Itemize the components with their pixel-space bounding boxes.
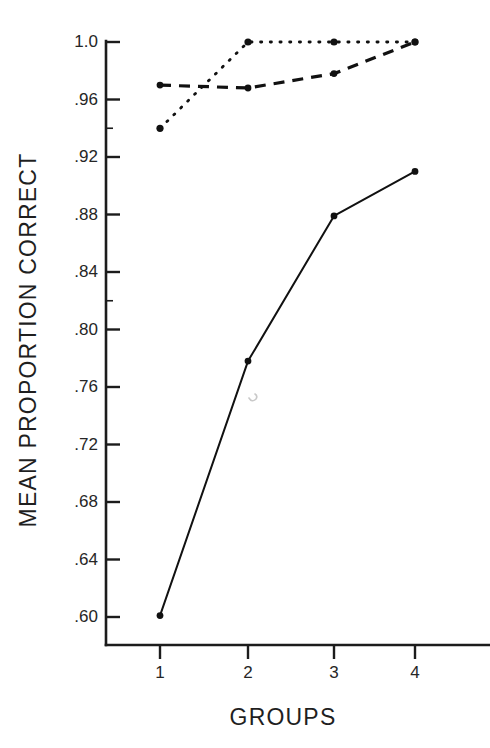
- y-tick-label: .84: [74, 262, 98, 281]
- y-tick-label: .64: [74, 550, 98, 569]
- data-point-solid: [245, 358, 252, 365]
- data-point-dashed: [157, 82, 164, 89]
- data-point-solid: [157, 612, 164, 619]
- y-tick-label: .92: [74, 147, 98, 166]
- data-point-dotted: [156, 125, 163, 132]
- x-tick-label: 2: [243, 663, 252, 682]
- data-point-dotted: [244, 38, 251, 45]
- series-layer: [156, 38, 418, 619]
- line-chart: MEAN PROPORTION CORRECT .60.64.68.72.76.…: [0, 0, 490, 748]
- data-point-dashed: [331, 70, 338, 77]
- y-axis-ticks: .60.64.68.72.76.80.84.88.92.961.0: [74, 32, 120, 626]
- x-tick-label: 3: [329, 663, 338, 682]
- data-point-dotted: [330, 38, 337, 45]
- series-line-solid: [160, 171, 415, 615]
- data-point-solid: [331, 213, 338, 220]
- y-tick-label: .76: [74, 377, 98, 396]
- y-tick-label: .88: [74, 205, 98, 224]
- data-point-dashed: [245, 85, 252, 92]
- y-axis-title: MEAN PROPORTION CORRECT: [15, 153, 41, 528]
- x-tick-label: 4: [410, 663, 419, 682]
- y-tick-label: .96: [74, 90, 98, 109]
- series-line-dashed: [160, 42, 415, 88]
- data-point-dotted: [411, 38, 418, 45]
- y-tick-label: .68: [74, 492, 98, 511]
- chart-figure: MEAN PROPORTION CORRECT .60.64.68.72.76.…: [0, 0, 490, 748]
- data-point-solid: [412, 168, 419, 175]
- x-tick-label: 1: [155, 663, 164, 682]
- y-tick-label: .60: [74, 607, 98, 626]
- scan-artifact: [249, 394, 257, 401]
- y-tick-label: .72: [74, 435, 98, 454]
- x-axis-ticks: 1234: [155, 645, 419, 682]
- x-axis-title: GROUPS: [230, 704, 337, 730]
- y-tick-label: 1.0: [74, 32, 98, 51]
- y-tick-label: .80: [74, 320, 98, 339]
